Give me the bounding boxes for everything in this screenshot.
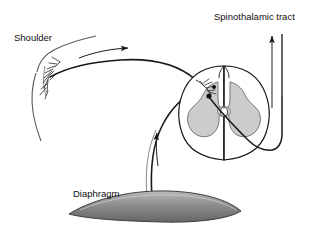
diagram-canvas: Shoulder Spinothalamic tract Diaphragm xyxy=(0,0,334,234)
ascending-tract-limb xyxy=(272,96,282,150)
referred-pain-diagram: Shoulder Spinothalamic tract Diaphragm xyxy=(0,0,334,234)
shoulder-region xyxy=(32,36,96,141)
shoulder-nerve-terminal-branches xyxy=(40,57,60,99)
spinal-cord-cross-section xyxy=(179,66,282,160)
label-spinothalamic-tract: Spinothalamic tract xyxy=(214,11,295,22)
label-diaphragm: Diaphragm xyxy=(73,188,120,199)
synapse-dot-primary xyxy=(206,93,211,98)
synapse-dot-secondary xyxy=(212,85,216,89)
shoulder-arm-contour xyxy=(32,73,41,141)
label-shoulder: Shoulder xyxy=(14,32,52,43)
shoulder-afferent-direction-arrow xyxy=(79,48,128,58)
